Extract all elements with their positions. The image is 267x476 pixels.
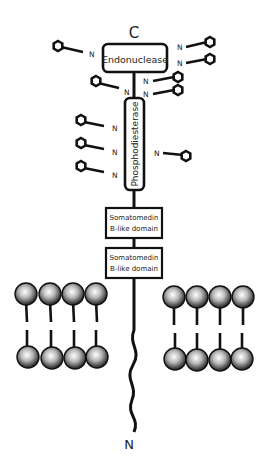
somatomedin-2-line2: B-like domain (110, 265, 158, 273)
lipid-bilayer-right (163, 286, 254, 371)
ectonucleotide-diagram: C Endonuclease Phosphodiesterase Somatom… (0, 0, 267, 476)
glycan-n-label: N (112, 124, 118, 133)
glycan-icon (92, 76, 119, 88)
somatomedin-1-line2: B-like domain (110, 225, 158, 233)
glycan-n-label: N (89, 50, 95, 59)
glycan-n-label: N (112, 148, 118, 157)
somatomedin-domain-2: Somatomedin B-like domain (106, 248, 162, 278)
endonuclease-domain: Endonuclease (102, 44, 168, 72)
glycan-icon (54, 41, 83, 52)
glycan-n-label: N (143, 90, 149, 99)
glycan-icon (186, 54, 214, 64)
glycan-icon (77, 161, 104, 172)
phosphodiesterase-domain: Phosphodiesterase (125, 98, 144, 190)
phosphodiesterase-label: Phosphodiesterase (130, 101, 140, 187)
glycan-icon (153, 85, 182, 95)
n-terminus-label: N (124, 437, 134, 452)
glycan-n-label: N (154, 149, 160, 158)
glycan-icon (186, 37, 214, 47)
glycan-icon (77, 138, 104, 149)
glycan-n-label: N (177, 43, 183, 52)
glycan-n-label: N (177, 59, 183, 68)
glycan-n-label: N (143, 77, 149, 86)
somatomedin-2-line1: Somatomedin (110, 254, 159, 262)
somatomedin-domain-1: Somatomedin B-like domain (106, 208, 162, 238)
transmembrane-wavy-tail (130, 278, 136, 432)
lipid-bilayer-left (15, 283, 108, 369)
endonuclease-label: Endonuclease (102, 54, 168, 65)
glycan-icon (153, 72, 182, 82)
glycan-n-label: N (124, 88, 130, 97)
glycan-n-label: N (112, 171, 118, 180)
glycan-icon (77, 115, 104, 126)
c-terminus-label: C (129, 24, 139, 42)
glycan-icon (163, 151, 190, 161)
somatomedin-1-line1: Somatomedin (110, 214, 159, 222)
